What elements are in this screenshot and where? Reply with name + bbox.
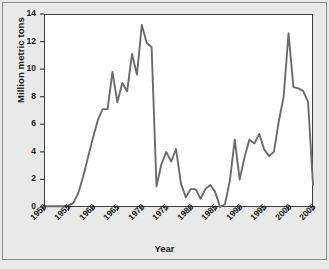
data-line-0 <box>44 25 313 207</box>
y-tick-label: 2 <box>10 173 36 183</box>
y-tick-label: 4 <box>10 146 36 156</box>
chart-svg <box>0 0 329 269</box>
chart-figure: 02468101214 1950195519601965197019751980… <box>0 0 329 269</box>
data-series-group <box>44 25 313 207</box>
x-axis-title: Year <box>0 243 329 254</box>
y-axis-title-text: Million metric tons <box>15 17 26 103</box>
y-axis-title: Million metric tons <box>12 0 28 120</box>
